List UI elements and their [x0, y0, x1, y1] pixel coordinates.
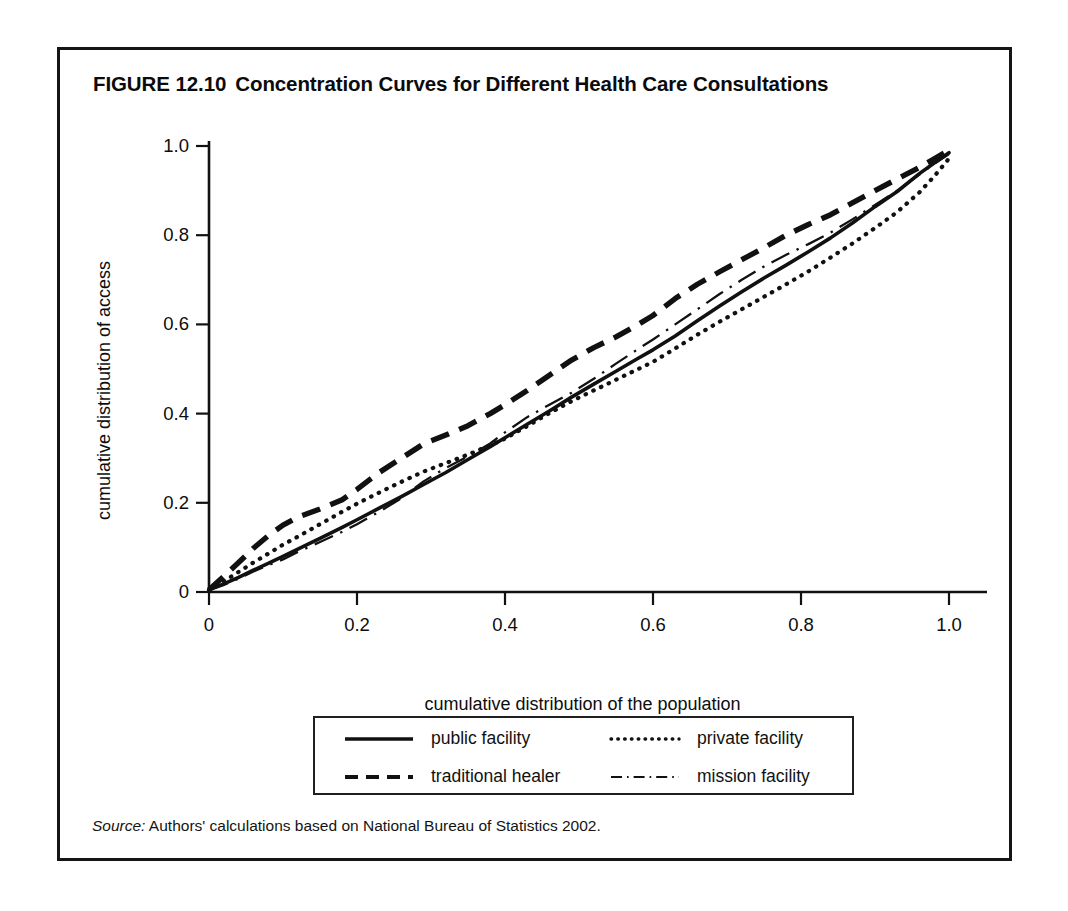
source-note: Source: Authors' calculations based on N…	[92, 817, 601, 835]
series-lines	[209, 150, 949, 590]
legend-item-mission-facility[interactable]: mission facility	[585, 766, 852, 787]
legend-label: traditional healer	[431, 766, 560, 787]
legend-item-traditional-healer[interactable]: traditional healer	[315, 766, 585, 787]
x-tick-label: 0	[204, 614, 214, 636]
x-tick-label: 0.2	[344, 614, 370, 636]
y-axis-label: cumulative distribution of access	[94, 201, 115, 581]
source-label: Source:	[92, 817, 145, 834]
dashdot-line-swatch	[609, 770, 681, 784]
legend-label: mission facility	[697, 766, 810, 787]
dotted-line-swatch	[609, 732, 681, 746]
x-tick-label: 0.8	[788, 614, 814, 636]
y-tick-label: 0.6	[121, 313, 189, 335]
x-tick-label: 0.6	[640, 614, 666, 636]
legend-row: traditional healer mission facility	[315, 757, 852, 796]
axis-ticks	[196, 146, 949, 605]
y-tick-label: 0	[121, 581, 189, 603]
dashed-line-swatch	[343, 770, 415, 784]
legend-label: public facility	[431, 728, 530, 749]
chart-legend: public facility private facility traditi…	[313, 716, 854, 795]
series-line-private-facility	[209, 158, 949, 589]
x-axis-label: cumulative distribution of the populatio…	[60, 694, 1015, 715]
legend-item-private-facility[interactable]: private facility	[585, 728, 852, 749]
y-tick-label: 0.2	[121, 492, 189, 514]
y-tick-label: 0.8	[121, 224, 189, 246]
legend-label: private facility	[697, 728, 803, 749]
x-tick-label: 1.0	[936, 614, 962, 636]
solid-line-swatch	[343, 732, 415, 746]
legend-row: public facility private facility	[315, 719, 852, 758]
x-tick-label: 0.4	[492, 614, 518, 636]
figure-frame: FIGURE 12.10Concentration Curves for Dif…	[57, 47, 1012, 861]
legend-item-public-facility[interactable]: public facility	[315, 728, 585, 749]
y-tick-label: 0.4	[121, 403, 189, 425]
y-tick-label: 1.0	[121, 135, 189, 157]
source-text: Authors' calculations based on National …	[145, 817, 600, 834]
